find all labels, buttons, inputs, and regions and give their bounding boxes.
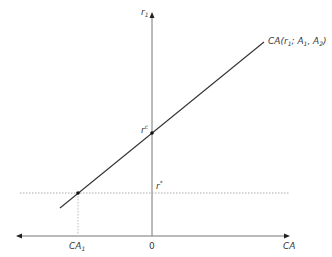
x-axis-right-arrow-icon [284,234,290,239]
curve-label: CA(r1; A1, A2) [268,37,327,47]
ca1-point [76,191,80,195]
rc-point [150,131,154,135]
x-axis-left-arrow-icon [16,234,22,239]
y-axis-arrow-icon [150,12,155,18]
y-axis-label: r1 [141,8,149,18]
origin-label: 0 [149,242,155,251]
x-axis-label: CA [283,242,295,251]
rc-label: rc [141,124,148,135]
rstar-label: r* [156,180,163,191]
ca1-label: CA1 [69,242,85,252]
